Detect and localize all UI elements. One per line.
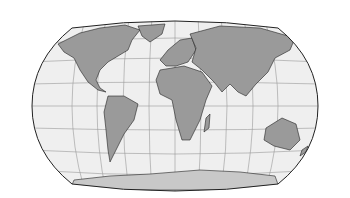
world-map — [0, 0, 350, 198]
